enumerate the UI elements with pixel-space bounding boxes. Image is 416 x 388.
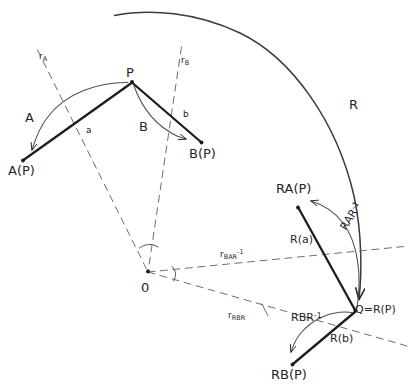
point-marker-P bbox=[130, 80, 134, 84]
dashed-axis-r-BAR-inverse bbox=[148, 246, 409, 272]
label-axis-r-B: rB bbox=[181, 56, 189, 66]
axis-r-BAR-sub: BAR bbox=[224, 253, 237, 261]
point-markers bbox=[130, 80, 358, 313]
label-axis-r-A: rA bbox=[39, 52, 47, 62]
label-operator-R: R bbox=[349, 98, 358, 111]
label-point-Q: Q=R(P) bbox=[355, 304, 396, 315]
label-axis-r-BAR-inverse: rBAR-1 bbox=[220, 249, 244, 260]
label-origin-O: 0 bbox=[141, 281, 149, 294]
axis-r-B-sub: B bbox=[185, 59, 189, 67]
label-vector-a: a bbox=[86, 126, 92, 135]
label-operator-A: A bbox=[25, 111, 34, 124]
label-point-RAP: RA(P) bbox=[276, 182, 311, 195]
vector-a-P-to-AP bbox=[21, 83, 131, 162]
conjugate-RBR-exponent: -1 bbox=[314, 311, 322, 320]
label-conjugate-RBR-inverse: RBR-1 bbox=[291, 312, 322, 323]
arc-operator-A bbox=[32, 82, 128, 150]
label-point-P: P bbox=[126, 66, 134, 79]
label-R-of-b: R(b) bbox=[330, 333, 353, 344]
point-marker-O bbox=[146, 270, 150, 274]
dashed-axis-r-B bbox=[148, 47, 182, 272]
diagram-canvas: P A(P) B(P) 0 RA(P) Q=R(P) RB(P) A B R a… bbox=[0, 0, 416, 388]
label-axis-r-RBR: rRBR bbox=[228, 311, 245, 321]
axis-r-BAR-exponent: -1 bbox=[237, 248, 243, 256]
label-vector-b: b bbox=[183, 110, 189, 119]
label-point-AP: A(P) bbox=[8, 164, 35, 177]
origin-angle-arcs bbox=[140, 244, 176, 281]
diagram-vector-layer bbox=[0, 0, 416, 388]
axis-r-A-sub: A bbox=[43, 55, 47, 63]
label-operator-B: B bbox=[139, 120, 148, 133]
conjugate-RBR-base: RBR bbox=[291, 311, 314, 324]
label-point-RBP: RB(P) bbox=[271, 368, 307, 381]
label-point-BP: B(P) bbox=[189, 147, 216, 160]
axis-r-RBR-sub: RBR bbox=[232, 314, 245, 322]
label-R-of-a: R(a) bbox=[290, 234, 313, 245]
